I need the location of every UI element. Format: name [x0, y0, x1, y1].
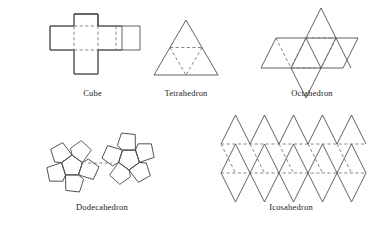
caption-cube: Cube [40, 89, 145, 98]
icosahedron-net-diagram [216, 126, 366, 202]
dodecahedron-rosette-left [41, 140, 102, 198]
dodecahedron-net-diagram [32, 126, 172, 202]
octahedron-net-diagram [258, 10, 366, 80]
caption-dodecahedron: Dodecahedron [32, 203, 172, 212]
caption-tetrahedron: Tetrahedron [150, 89, 222, 98]
tetrahedron-net-diagram [150, 16, 222, 78]
dodecahedron-rosette-right [99, 127, 160, 185]
caption-icosahedron: Icosahedron [216, 203, 366, 212]
caption-octahedron: Octahedron [258, 89, 366, 98]
platonic-solids-nets-figure: Cube Tetrahedron [0, 0, 380, 235]
cube-net-diagram [40, 8, 145, 80]
